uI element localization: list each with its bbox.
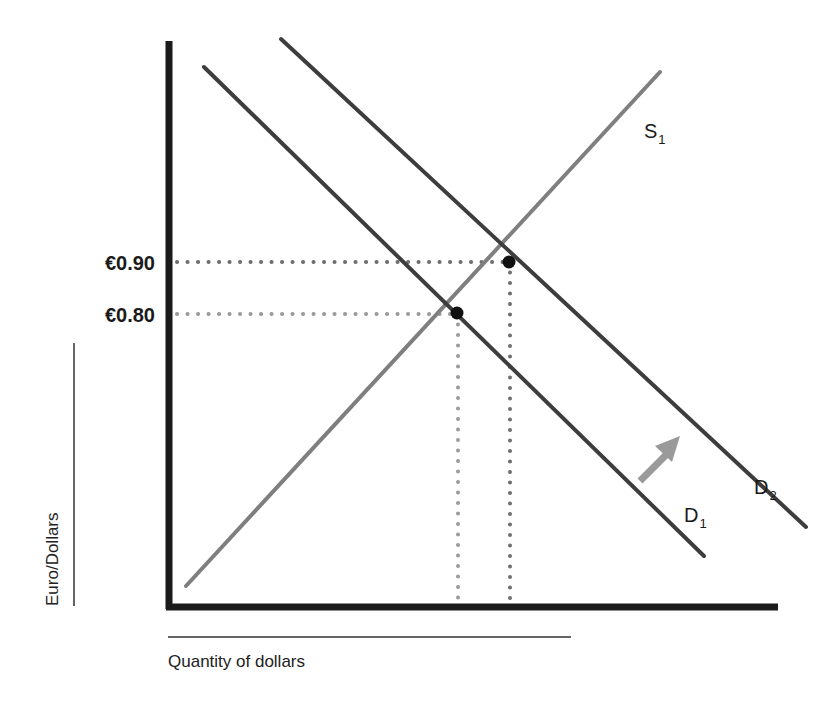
supply-curve-s1 <box>186 72 660 586</box>
label-d2: D2 <box>754 476 777 503</box>
label-s1: S1 <box>644 120 666 147</box>
y-axis-title: Euro/Dollars <box>43 512 62 606</box>
shift-arrow-icon <box>640 436 680 481</box>
supply-demand-chart: €0.90 €0.80 S1 D1 D2 Euro/Dollars Quanti… <box>0 0 816 713</box>
label-d1: D1 <box>684 504 707 531</box>
x-axis-title: Quantity of dollars <box>168 652 305 671</box>
equilibrium-point-080 <box>451 307 464 320</box>
price-label-090: €0.90 <box>105 252 155 274</box>
price-label-080: €0.80 <box>105 304 155 326</box>
demand-curve-d2 <box>281 39 806 527</box>
equilibrium-point-090 <box>503 256 516 269</box>
